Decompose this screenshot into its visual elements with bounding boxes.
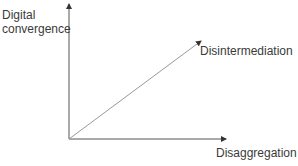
vector-label: Disintermediation <box>200 44 293 58</box>
y-axis-label: Digital convergence <box>2 8 71 36</box>
disintermediation-vector <box>69 41 201 139</box>
x-axis-label: Disaggregation <box>216 146 297 160</box>
y-axis-label-line2: convergence <box>2 22 71 36</box>
y-axis-label-line1: Digital <box>2 8 71 22</box>
